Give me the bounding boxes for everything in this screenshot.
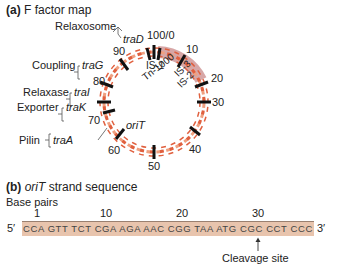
pilin-label: Pilin (19, 134, 40, 146)
trad-gene-label: traD (123, 33, 144, 45)
part-b-title: (b) oriT strand sequence (6, 180, 137, 194)
five-prime-label: 5′ (7, 222, 15, 234)
ring-label-40: 40 (189, 143, 201, 155)
trak-gene-label: traK (66, 101, 86, 113)
ring-label-90: 90 (113, 45, 125, 57)
traa-gene-label: traA (53, 134, 73, 146)
ring-label-100-0: 100/0 (147, 29, 175, 41)
relaxosome-label: Relaxosome (55, 20, 116, 32)
bp-tick-30: 30 (252, 207, 264, 219)
ring-label-10: 10 (186, 43, 198, 55)
part-b-title-italic: oriT (25, 180, 46, 194)
part-b-label: (b) (6, 180, 21, 194)
ring-label-20: 20 (211, 72, 223, 84)
cleavage-site-label: Cleavage site (222, 252, 289, 264)
ring-label-60: 60 (108, 144, 120, 156)
orit-sequence: CCA GTT TCT CGA AGA AAC CGG TAA ATG CGC … (22, 222, 314, 236)
ring-label-50: 50 (148, 160, 160, 172)
relaxase-label: Relaxase (23, 86, 69, 98)
ring-label-80: 80 (93, 75, 105, 87)
trag-gene-label: traG (82, 59, 103, 71)
ring-label-30: 30 (212, 96, 224, 108)
trai-gene-label: traI (74, 86, 90, 98)
orit-sequence-bar: CCA GTT TCT CGA AGA AAC CGG TAA ATG CGC … (22, 221, 314, 236)
base-pairs-label: Base pairs (6, 196, 58, 208)
ring-label-70: 70 (88, 114, 100, 126)
orit-label: oriT (126, 119, 145, 131)
exporter-label: Exporter (17, 101, 59, 113)
coupling-label: Coupling (32, 59, 75, 71)
bp-tick-10: 10 (100, 207, 112, 219)
bp-tick-1: 1 (34, 207, 40, 219)
part-b-title-text: strand sequence (49, 180, 138, 194)
bp-tick-20: 20 (176, 207, 188, 219)
three-prime-label: 3′ (317, 222, 325, 234)
